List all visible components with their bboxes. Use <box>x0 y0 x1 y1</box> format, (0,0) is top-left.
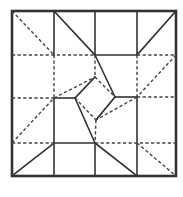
mountain-folds <box>12 11 176 176</box>
valley-fold-line <box>12 98 54 143</box>
mountain-fold-line <box>75 98 95 143</box>
valley-fold-line <box>137 143 176 176</box>
mountain-fold-line <box>96 97 115 120</box>
mountain-fold-line <box>95 143 137 176</box>
valley-fold-line <box>12 11 54 55</box>
valley-fold-line <box>95 120 96 143</box>
valley-fold-line <box>95 77 115 97</box>
mountain-fold-line <box>95 55 115 97</box>
mountain-fold-line <box>54 11 95 55</box>
mountain-fold-line <box>12 143 54 176</box>
valley-fold-line <box>96 97 137 120</box>
mountain-fold-line <box>75 77 95 98</box>
valley-fold-line <box>75 98 96 120</box>
paper-border <box>12 11 176 176</box>
mountain-fold-line <box>137 11 176 55</box>
crease-pattern-svg <box>0 0 183 197</box>
crease-pattern-diagram <box>0 0 183 197</box>
valley-folds <box>12 11 176 176</box>
valley-fold-line <box>54 77 95 98</box>
valley-fold-line <box>137 55 176 97</box>
